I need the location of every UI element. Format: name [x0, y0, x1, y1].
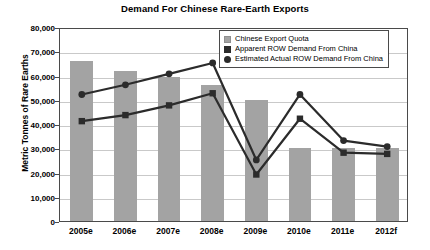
y-axis-tick-label: 70,000 [0, 48, 55, 57]
data-point-circle [122, 81, 129, 88]
y-axis-tick-label: 10,000 [0, 193, 55, 202]
legend-item: Apparent ROW Demand From China [224, 44, 383, 54]
y-axis-tick-label: 0 [0, 218, 55, 227]
legend-bar-swatch-icon [224, 36, 231, 43]
line-path [82, 93, 387, 174]
x-axis-tick-label: 2010e [287, 226, 311, 236]
data-point-circle [253, 157, 260, 164]
data-point-square [297, 116, 303, 122]
chart-container: Demand For Chinese Rare-Earth Exports Me… [0, 0, 430, 250]
x-axis-tick-label: 2011e [331, 226, 354, 236]
line-path [82, 63, 387, 160]
data-point-square [209, 90, 215, 96]
data-point-circle [384, 143, 391, 150]
legend-circle-marker-icon [224, 56, 231, 63]
legend-label: Apparent ROW Demand From China [235, 44, 358, 54]
chart-legend: Chinese Export QuotaApparent ROW Demand … [219, 30, 389, 68]
data-point-square [79, 118, 85, 124]
y-axis-tick-label: 50,000 [0, 96, 55, 105]
legend-square-marker-icon [224, 46, 231, 53]
x-axis-tick-label: 2006e [113, 226, 137, 236]
y-axis-tick-labels: 80,00070,00060,00050,00040,00030,00020,0… [0, 28, 55, 222]
x-axis-tick-label: 2005e [69, 226, 93, 236]
data-point-circle [209, 60, 216, 67]
data-point-square [340, 149, 346, 155]
data-point-circle [340, 137, 347, 144]
y-axis-tick-label: 60,000 [0, 72, 55, 81]
chart-title: Demand For Chinese Rare-Earth Exports [0, 3, 430, 14]
data-point-square [384, 151, 390, 157]
legend-item: Chinese Export Quota [224, 34, 383, 44]
y-axis-tick-label: 30,000 [0, 145, 55, 154]
x-axis-tick-label: 2007e [156, 226, 180, 236]
x-axis-tick-label: 2012f [375, 226, 397, 236]
legend-label: Chinese Export Quota [235, 34, 309, 44]
data-point-square [122, 112, 128, 118]
x-axis-tick-label: 2008e [200, 226, 224, 236]
data-point-square [253, 171, 259, 177]
legend-label: Estimated Actual ROW Demand From China [235, 54, 383, 64]
legend-item: Estimated Actual ROW Demand From China [224, 54, 383, 64]
y-axis-tick-label: 80,000 [0, 24, 55, 33]
y-axis-tick-label: 40,000 [0, 121, 55, 130]
x-axis-tick-label: 2009e [243, 226, 267, 236]
y-axis-tick-label: 20,000 [0, 169, 55, 178]
y-axis-tick-mark [55, 222, 59, 223]
data-point-circle [166, 70, 173, 77]
data-point-circle [78, 91, 85, 98]
data-point-square [166, 102, 172, 108]
data-point-circle [297, 91, 304, 98]
x-axis-tick-labels: 2005e2006e2007e2008e2009e2010e2011e2012f [59, 226, 408, 246]
